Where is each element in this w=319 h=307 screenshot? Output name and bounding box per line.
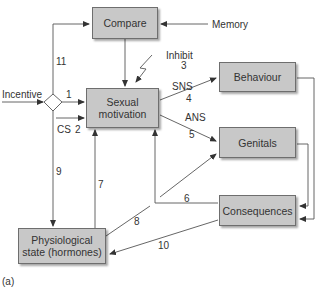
physiological-state-box: Physiological state (hormones) — [18, 228, 106, 264]
incentive-label: Incentive — [2, 89, 42, 100]
edge-label-5: 5 — [189, 129, 195, 140]
behaviour-box: Behaviour — [219, 62, 296, 92]
edge-label-10: 10 — [158, 240, 169, 251]
sexual-motivation-box: Sexual motivation — [86, 88, 159, 128]
compare-box: Compare — [92, 7, 158, 39]
edge-label-1: 1 — [66, 89, 72, 100]
ans-label: ANS — [185, 112, 206, 123]
sns-label: SNS — [172, 81, 193, 92]
edge-label-11: 11 — [56, 56, 66, 67]
edge-label-3: 3 — [181, 60, 187, 71]
physiological-label-1: Physiological — [31, 234, 92, 246]
sexual-motivation-label-2: motivation — [99, 108, 147, 120]
inhibit-label: Inhibit — [166, 50, 193, 61]
cs-label: CS — [57, 124, 71, 135]
figure-caption: (a) — [2, 276, 14, 287]
physiological-label-2: state (hormones) — [22, 246, 101, 258]
edge-label-7: 7 — [98, 179, 104, 190]
edge-label-6: 6 — [184, 193, 190, 204]
edge-label-4: 4 — [186, 93, 192, 104]
genitals-box: Genitals — [219, 127, 296, 158]
genitals-label: Genitals — [238, 137, 277, 149]
memory-label: Memory — [212, 19, 248, 30]
edge-label-9: 9 — [56, 166, 62, 177]
consequences-label: Consequences — [222, 205, 292, 217]
behaviour-label: Behaviour — [234, 71, 281, 83]
compare-label: Compare — [103, 17, 146, 29]
sexual-motivation-label-1: Sexual — [106, 96, 138, 108]
edge-label-2: 2 — [75, 124, 81, 135]
consequences-box: Consequences — [219, 195, 296, 226]
edge-label-8: 8 — [134, 216, 140, 227]
